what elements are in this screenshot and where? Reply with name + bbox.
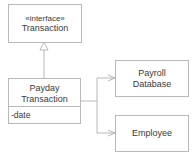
class-name: Transaction	[9, 23, 81, 34]
compartment-divider	[9, 106, 80, 107]
class-name-line2: Database	[116, 79, 188, 90]
class-name-line1: Payday	[9, 83, 80, 94]
class-name-line2: Transaction	[9, 94, 80, 105]
class-name-line1: Payroll	[116, 68, 188, 79]
realization-arrowhead-icon	[40, 42, 48, 50]
class-payday-transaction: Payday Transaction -date	[8, 78, 81, 124]
attribute: -date	[11, 110, 30, 120]
class-name: Employee	[116, 128, 188, 139]
class-employee: Employee	[115, 115, 189, 152]
class-transaction: «interface» Transaction	[8, 4, 82, 43]
class-payroll-database: Payroll Database	[115, 60, 189, 97]
